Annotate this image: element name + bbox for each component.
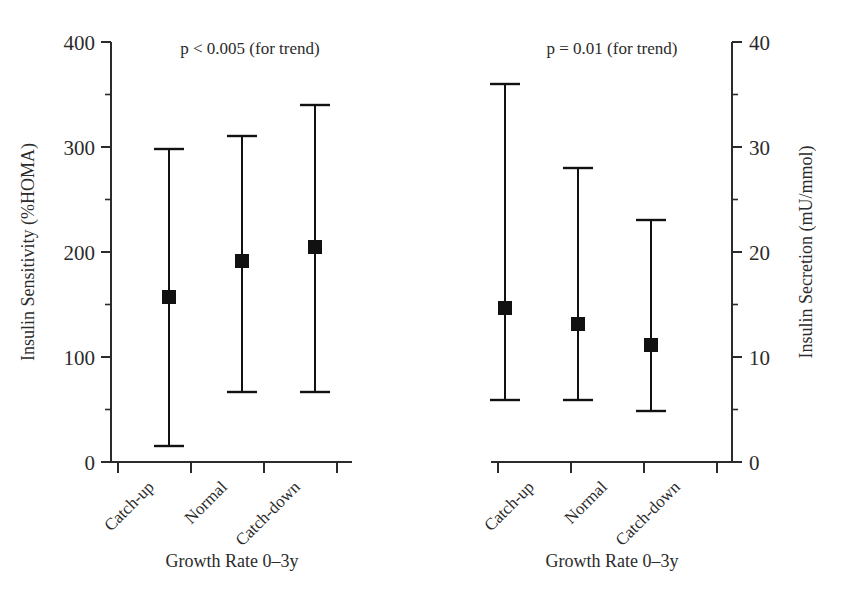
right-ytick-label-0: 0 <box>749 451 760 475</box>
right-errorbar-catch-down <box>636 220 666 411</box>
right-category-label-catch-down: Catch-down <box>612 477 685 550</box>
left-errorbar-catch-up <box>154 149 184 446</box>
left-category-label-normal: Normal <box>181 477 231 527</box>
left-datapoint-marker-normal <box>235 254 249 268</box>
left-errorbar-catch-down <box>300 105 330 392</box>
left-pvalue-annotation: p < 0.005 (for trend) <box>180 39 319 58</box>
left-ytick-label-400: 400 <box>64 31 96 55</box>
left-y-axis-title: Insulin Sensitivity (%HOMA) <box>18 143 39 361</box>
right-datapoint-marker-normal <box>571 317 585 331</box>
right-datapoint-marker-catch-down <box>644 338 658 352</box>
right-datapoint-marker-catch-up <box>498 301 512 315</box>
right-category-label-catch-up: Catch-up <box>480 477 538 535</box>
right-errorbar-normal <box>563 168 593 400</box>
right-x-axis-title: Growth Rate 0–3y <box>546 551 679 571</box>
left-datapoint-marker-catch-up <box>162 290 176 304</box>
figure-container: 400 300 200 100 0 p < 0.005 (for trend) … <box>0 0 843 597</box>
left-ytick-label-200: 200 <box>64 241 96 265</box>
right-category-label-normal: Normal <box>561 477 611 527</box>
right-errorbar-catch-up <box>490 84 520 400</box>
right-y-axis-title: Insulin Secretion (mU/mmol) <box>796 146 817 359</box>
chart-svg: 400 300 200 100 0 p < 0.005 (for trend) … <box>0 0 843 597</box>
left-panel: 400 300 200 100 0 p < 0.005 (for trend) … <box>18 31 352 571</box>
left-ytick-label-300: 300 <box>64 136 96 160</box>
left-category-label-catch-down: Catch-down <box>232 477 305 550</box>
right-ytick-label-10: 10 <box>749 346 770 370</box>
left-category-label-catch-up: Catch-up <box>100 477 158 535</box>
right-panel: 40 30 20 10 0 p = 0.01 (for trend) Insul… <box>480 31 817 571</box>
right-ytick-label-20: 20 <box>749 241 770 265</box>
left-ytick-label-0: 0 <box>85 451 96 475</box>
right-pvalue-annotation: p = 0.01 (for trend) <box>547 39 678 58</box>
right-ytick-label-30: 30 <box>749 136 770 160</box>
left-ytick-label-100: 100 <box>64 346 96 370</box>
left-datapoint-marker-catch-down <box>308 240 322 254</box>
right-ytick-label-40: 40 <box>749 31 770 55</box>
left-errorbar-normal <box>227 136 257 392</box>
left-x-axis-title: Growth Rate 0–3y <box>166 551 299 571</box>
